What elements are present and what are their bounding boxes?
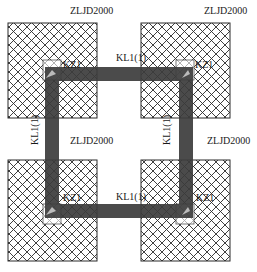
beam-left (45, 81, 59, 204)
foundation-label-bottom-right: ZLJD2000 (207, 135, 250, 146)
beam-label-top: KL1(1) (116, 52, 146, 64)
foundation-plan-diagram: ZLJD2000 ZLJD2000 ZLJD2000 ZLJD2000 KZ1 … (0, 0, 257, 272)
column-label-top-left: KZ1 (63, 59, 81, 70)
foundation-label-top-left: ZLJD2000 (70, 5, 113, 16)
beam-label-left: KL1(1) (29, 115, 41, 145)
foundation-label-top-right: ZLJD2000 (204, 5, 247, 16)
beam-right (179, 81, 193, 204)
column-label-top-right: KZ1 (195, 59, 213, 70)
beam-label-right: KL1(1) (161, 115, 173, 145)
column-label-bottom-right: KZ1 (196, 192, 214, 203)
foundation-label-bottom-left: ZLJD2000 (70, 135, 113, 146)
beam-bottom (45, 204, 193, 218)
beam-label-bottom: KL1(1) (116, 191, 146, 203)
column-label-bottom-left: KZ1 (63, 192, 81, 203)
